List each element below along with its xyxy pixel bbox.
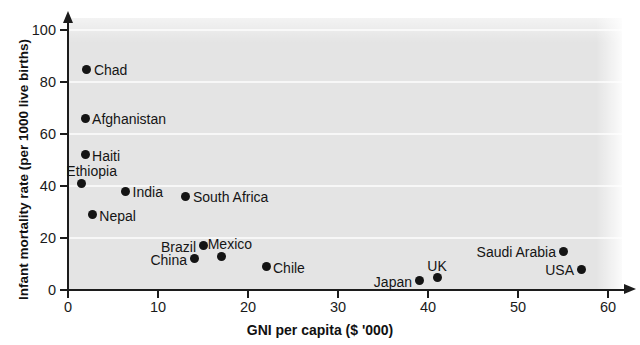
y-axis-tick: [60, 133, 68, 135]
gridline: [68, 81, 622, 83]
data-point-label: Nepal: [99, 209, 136, 223]
data-point-label: Ethiopia: [66, 164, 117, 178]
data-point-label: UK: [427, 259, 446, 273]
y-axis-tick-label: 100: [32, 23, 56, 38]
data-point[interactable]: [82, 65, 91, 74]
data-point-label: Saudi Arabia: [477, 245, 556, 259]
y-axis-line: [67, 22, 69, 291]
gridline: [68, 29, 622, 31]
y-axis-tick-label: 80: [40, 75, 56, 90]
x-axis-title: GNI per capita ($ '000): [0, 322, 640, 338]
data-point[interactable]: [199, 241, 208, 250]
y-axis-tick: [60, 185, 68, 187]
x-axis-tick-label: 40: [420, 300, 436, 315]
x-axis-tick: [607, 291, 609, 298]
y-axis-tick: [60, 237, 68, 239]
x-axis-tick-label: 30: [330, 300, 346, 315]
x-axis-tick: [427, 291, 429, 298]
x-axis-tick: [157, 291, 159, 298]
y-axis-title: Infant mortality rate (per 1000 live bir…: [16, 0, 34, 300]
y-axis-tick-label: 20: [40, 231, 56, 246]
y-axis-tick-label: 40: [40, 179, 56, 194]
data-point[interactable]: [81, 150, 90, 159]
x-axis-tick: [337, 291, 339, 298]
x-axis-tick-label: 50: [510, 300, 526, 315]
data-point-label: Haiti: [92, 149, 120, 163]
data-point-label: China: [150, 253, 187, 267]
data-point-label: Chad: [94, 63, 127, 77]
gridline: [68, 237, 622, 239]
y-axis-tick-label: 60: [40, 127, 56, 142]
scatter-chart: 020406080100 0102030405060 ChadAfghanist…: [0, 0, 640, 345]
plot-right-fade: [596, 18, 622, 290]
data-point-label: Afghanistan: [92, 112, 166, 126]
x-axis-tick-label: 0: [64, 300, 72, 315]
data-point[interactable]: [262, 262, 271, 271]
x-axis-tick: [247, 291, 249, 298]
y-axis-tick: [60, 81, 68, 83]
y-axis-arrow-icon: [63, 11, 73, 23]
data-point-label: Chile: [273, 261, 305, 275]
x-axis-tick-label: 10: [150, 300, 166, 315]
y-axis-tick-label: 0: [48, 283, 56, 298]
data-point-label: Japan: [374, 275, 412, 289]
data-point[interactable]: [577, 265, 586, 274]
x-axis-tick-label: 60: [600, 300, 616, 315]
data-point[interactable]: [121, 187, 130, 196]
gridline: [68, 133, 622, 135]
data-point-label: USA: [545, 263, 574, 277]
data-point[interactable]: [217, 252, 226, 261]
x-axis-tick: [67, 291, 69, 298]
data-point[interactable]: [559, 247, 568, 256]
data-point[interactable]: [415, 276, 424, 285]
data-point[interactable]: [88, 210, 97, 219]
y-axis-tick: [60, 29, 68, 31]
x-axis-line: [67, 289, 628, 291]
data-point-label: Mexico: [208, 237, 252, 251]
x-axis-tick-label: 20: [240, 300, 256, 315]
data-point[interactable]: [81, 114, 90, 123]
data-point[interactable]: [190, 254, 199, 263]
data-point-label: South Africa: [193, 190, 269, 204]
data-point-label: India: [133, 185, 163, 199]
x-axis-arrow-icon: [624, 284, 636, 294]
x-axis-tick: [517, 291, 519, 298]
data-point[interactable]: [77, 179, 86, 188]
